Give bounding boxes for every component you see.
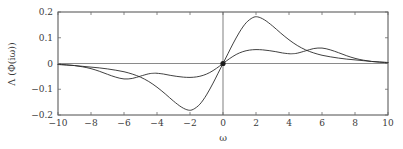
x-tick-label: 2 [253, 118, 259, 128]
y-tick-label: −0.1 [31, 84, 53, 94]
plot-canvas: −10−8−6−4−20246810 −0.2−0.100.10.2 ω Λ (… [0, 0, 403, 149]
x-tick-label: −4 [150, 118, 164, 128]
x-tick-label: 6 [319, 118, 325, 128]
x-tick-label: 0 [220, 118, 226, 128]
origin-marker [220, 61, 225, 66]
data-point-markers [220, 61, 225, 66]
x-tick-label: −2 [183, 118, 196, 128]
x-tick-label: 10 [382, 118, 394, 128]
x-tick-label: 8 [352, 118, 358, 128]
x-tick-label: −8 [84, 118, 98, 128]
y-tick-label: 0.1 [39, 33, 53, 43]
y-tick-label: 0.2 [39, 7, 53, 17]
y-tick-label: −0.2 [31, 110, 53, 120]
x-tick-label: 4 [286, 118, 292, 128]
y-tick-label: 0 [47, 59, 53, 69]
x-axis-title: ω [219, 132, 227, 143]
y-axis-title: Λ (Φ(iω)) [6, 42, 17, 86]
x-tick-label: −6 [117, 118, 131, 128]
chart-figure: −10−8−6−4−20246810 −0.2−0.100.10.2 ω Λ (… [0, 0, 403, 149]
